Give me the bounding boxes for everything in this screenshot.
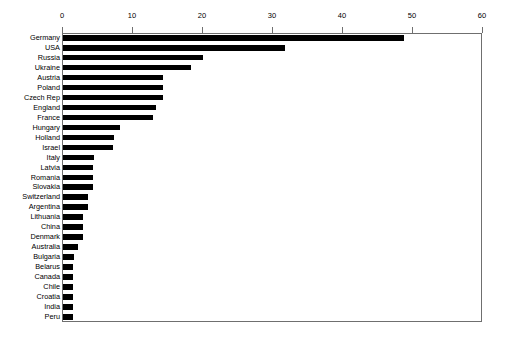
- x-axis-tick-label: 60: [478, 11, 486, 20]
- category-label: Holland: [35, 133, 60, 143]
- category-label: Australia: [32, 242, 60, 252]
- bar: [63, 165, 93, 171]
- bar-row: Switzerland: [0, 192, 507, 202]
- bar: [63, 204, 88, 210]
- bar: [63, 145, 113, 151]
- category-label: England: [33, 103, 60, 113]
- bar-row: Russia: [0, 53, 507, 63]
- category-label: Russia: [38, 53, 60, 63]
- category-label: China: [41, 222, 60, 232]
- bar-row: Croatia: [0, 292, 507, 302]
- x-axis-tick-label: 40: [338, 11, 346, 20]
- bar-row: Latvia: [0, 163, 507, 173]
- bar: [63, 184, 93, 190]
- bar: [63, 125, 120, 131]
- bar-row: Poland: [0, 83, 507, 93]
- bar: [63, 105, 156, 111]
- bar: [63, 85, 163, 91]
- category-label: USA: [45, 43, 60, 53]
- category-label: Poland: [37, 83, 60, 93]
- bar-row: Denmark: [0, 232, 507, 242]
- bar: [63, 314, 73, 320]
- bar-row: Austria: [0, 73, 507, 83]
- category-label: Lithuania: [30, 212, 60, 222]
- bar: [63, 55, 203, 61]
- category-label: Ukraine: [35, 63, 60, 73]
- bar-row: Bulgaria: [0, 252, 507, 262]
- bar-row: Canada: [0, 272, 507, 282]
- bar-row: Belarus: [0, 262, 507, 272]
- bar: [63, 175, 93, 181]
- bar-row: France: [0, 113, 507, 123]
- bar-row: Germany: [0, 33, 507, 43]
- bar: [63, 35, 404, 41]
- bar: [63, 95, 163, 101]
- category-label: Belarus: [35, 262, 60, 272]
- bar-chart: 0102030405060 GermanyUSARussiaUkraineAus…: [0, 0, 507, 338]
- bar: [63, 234, 83, 240]
- bar: [63, 264, 73, 270]
- bar: [63, 224, 83, 230]
- bar-row: Hungary: [0, 123, 507, 133]
- category-label: Romania: [31, 173, 60, 183]
- category-label: Bulgaria: [33, 252, 60, 262]
- category-label: Argentina: [29, 202, 60, 212]
- bar-row: England: [0, 103, 507, 113]
- category-label: Israel: [42, 143, 60, 153]
- bar: [63, 274, 73, 280]
- bar-rows: GermanyUSARussiaUkraineAustriaPolandCzec…: [0, 33, 507, 322]
- bar: [63, 75, 163, 81]
- bar-row: India: [0, 302, 507, 312]
- category-label: Switzerland: [22, 192, 60, 202]
- bar: [63, 214, 83, 220]
- bar: [63, 244, 78, 250]
- bar: [63, 284, 73, 290]
- category-label: India: [44, 302, 60, 312]
- bar: [63, 45, 285, 51]
- category-label: Slovakia: [32, 182, 60, 192]
- bar-row: USA: [0, 43, 507, 53]
- bar-row: Australia: [0, 242, 507, 252]
- bar: [63, 294, 73, 300]
- bar: [63, 115, 153, 121]
- x-axis-tick-label: 30: [268, 11, 276, 20]
- category-label: Denmark: [30, 232, 60, 242]
- bar: [63, 254, 74, 260]
- x-axis-tick-label: 20: [198, 11, 206, 20]
- category-label: Hungary: [32, 123, 60, 133]
- bar: [63, 304, 73, 310]
- category-label: France: [37, 113, 60, 123]
- category-label: Croatia: [36, 292, 60, 302]
- x-axis-tick-label: 10: [128, 11, 136, 20]
- bar-row: Peru: [0, 312, 507, 322]
- category-label: Austria: [37, 73, 60, 83]
- bar-row: Czech Rep: [0, 93, 507, 103]
- bar-row: Romania: [0, 173, 507, 183]
- x-axis-tick-label: 0: [60, 11, 64, 20]
- category-label: Latvia: [41, 163, 60, 173]
- bar: [63, 155, 94, 161]
- category-label: Canada: [34, 272, 60, 282]
- x-axis-tick-label: 50: [408, 11, 416, 20]
- category-label: Germany: [30, 33, 60, 43]
- bar-row: Argentina: [0, 202, 507, 212]
- bar-row: Israel: [0, 143, 507, 153]
- category-label: Chile: [43, 282, 60, 292]
- category-label: Czech Rep: [24, 93, 60, 103]
- bar-row: China: [0, 222, 507, 232]
- bar-row: Lithuania: [0, 212, 507, 222]
- bar: [63, 135, 114, 141]
- bar: [63, 65, 191, 71]
- bar-row: Slovakia: [0, 182, 507, 192]
- category-label: Italy: [47, 153, 60, 163]
- bar-row: Holland: [0, 133, 507, 143]
- bar-row: Italy: [0, 153, 507, 163]
- category-label: Peru: [45, 312, 60, 322]
- bar: [63, 194, 88, 200]
- bar-row: Chile: [0, 282, 507, 292]
- bar-row: Ukraine: [0, 63, 507, 73]
